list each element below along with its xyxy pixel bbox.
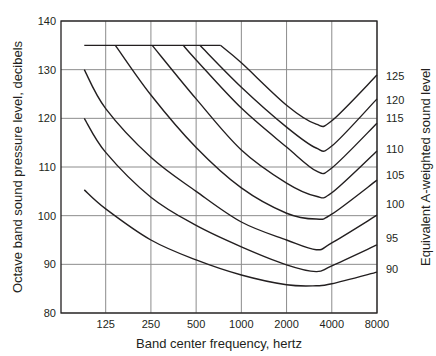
y-tick-label: 110 [38, 161, 56, 173]
curve-115dba [183, 45, 377, 173]
x-tick-label: 500 [187, 318, 205, 330]
x-tick-label: 2000 [274, 318, 298, 330]
x-tick-label: 125 [97, 318, 115, 330]
a-weighted-label-90: 90 [386, 263, 398, 275]
y-tick-label: 130 [38, 64, 56, 76]
y-axis-ticks: 8090100110120130140 [38, 15, 56, 319]
x-axis-ticks: 1252505001000200040008000 [97, 318, 390, 330]
y-tick-label: 100 [38, 210, 56, 222]
a-weighted-label-110: 110 [386, 143, 404, 155]
y-axis-title: Octave band sound pressure level, decibe… [10, 40, 25, 293]
a-weighted-label-105: 105 [386, 169, 404, 181]
y-tick-label: 120 [38, 112, 56, 124]
curve-125dba [220, 45, 377, 126]
sound-level-chart: 8090100110120130140 12525050010002000400… [0, 0, 436, 356]
a-weighted-label-125: 125 [386, 70, 404, 82]
a-weighted-label-120: 120 [386, 94, 404, 106]
y-tick-label: 80 [44, 307, 56, 319]
x-tick-label: 4000 [320, 318, 344, 330]
y-tick-label: 90 [44, 258, 56, 270]
sound-level-curves [84, 45, 377, 286]
curve-90dba [84, 190, 377, 286]
x-tick-label: 250 [142, 318, 160, 330]
a-weighted-label-115: 115 [386, 112, 404, 124]
x-tick-label: 1000 [229, 318, 253, 330]
curve-105dba [115, 45, 377, 219]
x-tick-label: 8000 [365, 318, 389, 330]
right-axis-title: Equivalent A-weighted sound level [418, 68, 433, 266]
a-weighted-level-labels: 9095100105110115120125 [386, 70, 404, 275]
curve-110dba [152, 45, 377, 198]
a-weighted-label-100: 100 [386, 198, 404, 210]
y-tick-label: 140 [38, 15, 56, 27]
curve-95dba [84, 118, 377, 271]
x-axis-title: Band center frequency, hertz [136, 336, 302, 351]
a-weighted-label-95: 95 [386, 232, 398, 244]
